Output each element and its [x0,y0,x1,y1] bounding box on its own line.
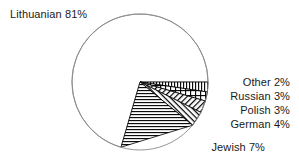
slice-label-lithuanian: Lithuanian 81% [10,8,87,20]
slice-label-russian: Russian 3% [230,90,290,102]
slice-label-polish: Polish 3% [240,104,290,116]
pie-chart-figure: Lithuanian 81% Other 2% Russian 3% Polis… [0,0,299,162]
slice-label-german: German 4% [230,118,290,130]
slice-label-other: Other 2% [243,76,290,88]
slice-label-jewish: Jewish 7% [212,141,265,153]
